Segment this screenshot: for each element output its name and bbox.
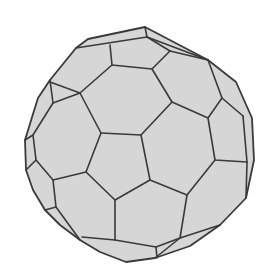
- polyhedron-figure: [0, 0, 264, 271]
- polyhedron-body: [25, 27, 254, 262]
- polyhedron-drawing: [0, 0, 264, 271]
